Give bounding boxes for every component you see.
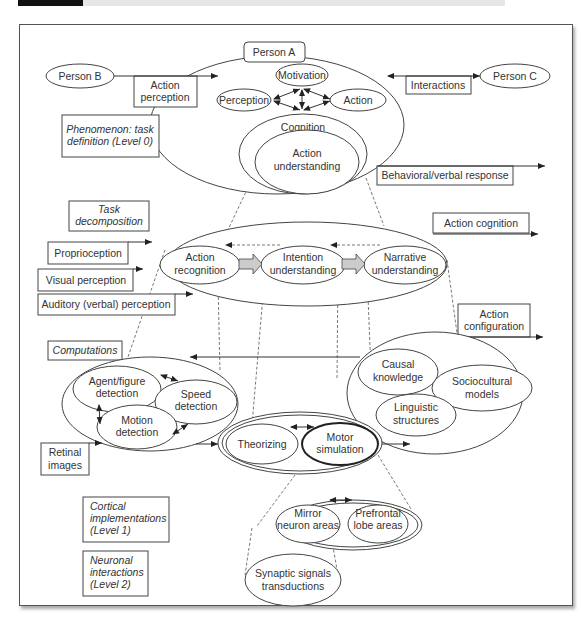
zoom-line [378, 455, 411, 509]
sociocultural-line1: Sociocultural [452, 375, 512, 387]
speed-detection-line2: detection [175, 400, 218, 412]
agent-figure-line1: Agent/figure [89, 375, 146, 387]
proprioception-label: Proprioception [54, 247, 122, 259]
synaptic-line2: transductions [262, 580, 324, 592]
narrative-understanding-line2: understanding [372, 264, 439, 276]
action-label: Action [343, 94, 372, 106]
zoom-line [447, 260, 457, 333]
cortical-line2: implementations [90, 512, 167, 524]
visual-perception-label: Visual perception [46, 274, 127, 286]
motor-simulation-line2: simulation [316, 443, 363, 455]
intention-understanding-line1: Intention [283, 251, 323, 263]
synaptic-line1: Synaptic signals [255, 567, 331, 579]
action-perception-line1: Action [150, 79, 179, 91]
action-configuration-line1: Action [479, 308, 508, 320]
prefrontal-line1: Prefrontal [355, 507, 401, 519]
interactions-label: Interactions [411, 79, 465, 91]
phenomenon-line2: definition (Level 0) [67, 135, 153, 147]
causal-knowledge-line2: knowledge [373, 371, 423, 383]
motion-detection-line2: detection [116, 426, 159, 438]
mirror-neuron-line1: Mirror [294, 507, 322, 519]
cortical-line3: (Level 1) [90, 524, 131, 536]
phenomenon-line1: Phenomenon: task [66, 123, 154, 135]
person-c-label: Person C [493, 70, 537, 82]
cortical-line1: Cortical [90, 500, 126, 512]
computations-label: Computations [53, 344, 119, 356]
narrative-understanding-line1: Narrative [384, 251, 427, 263]
action-understanding-line1: Action [292, 147, 321, 159]
linguistic-line1: Linguistic [394, 401, 438, 413]
linguistic-line2: structures [393, 414, 439, 426]
retinal-images-line2: images [48, 459, 82, 471]
neuronal-line1: Neuronal [90, 554, 133, 566]
speed-detection-line1: Speed [181, 388, 212, 400]
auditory-perception-label: Auditory (verbal) perception [42, 298, 171, 310]
prefrontal-line2: lobe areas [353, 519, 402, 531]
intention-understanding-line2: understanding [270, 264, 337, 276]
action-cognition-label: Action cognition [444, 217, 518, 229]
mirror-neuron-line2: neuron areas [277, 519, 339, 531]
diagram-canvas: Person A Motivation Perception Action Co… [0, 0, 587, 639]
behavioral-response-label: Behavioral/verbal response [381, 169, 508, 181]
agent-figure-line2: detection [96, 387, 139, 399]
perception-label: Perception [219, 94, 269, 106]
action-understanding-line2: understanding [274, 160, 341, 172]
motor-simulation-line1: Motor [327, 431, 354, 443]
motion-detection-line1: Motion [121, 414, 153, 426]
action-recognition-line2: recognition [174, 264, 226, 276]
action-configuration-line2: configuration [464, 320, 524, 332]
person-b-label: Person B [58, 70, 101, 82]
neuronal-line2: interactions [90, 566, 144, 578]
motivation-label: Motivation [278, 69, 326, 81]
task-decomposition-line1: Task [98, 203, 121, 215]
theorizing-label: Theorizing [237, 438, 286, 450]
person-a-label: Person A [253, 46, 296, 58]
action-perception-line2: perception [140, 91, 189, 103]
action-recognition-line1: Action [185, 251, 214, 263]
retinal-images-line1: Retinal [49, 446, 82, 458]
causal-knowledge-line1: Causal [382, 358, 415, 370]
task-decomposition-line2: decomposition [75, 215, 143, 227]
sociocultural-line2: models [465, 388, 499, 400]
neuronal-line3: (Level 2) [90, 578, 131, 590]
